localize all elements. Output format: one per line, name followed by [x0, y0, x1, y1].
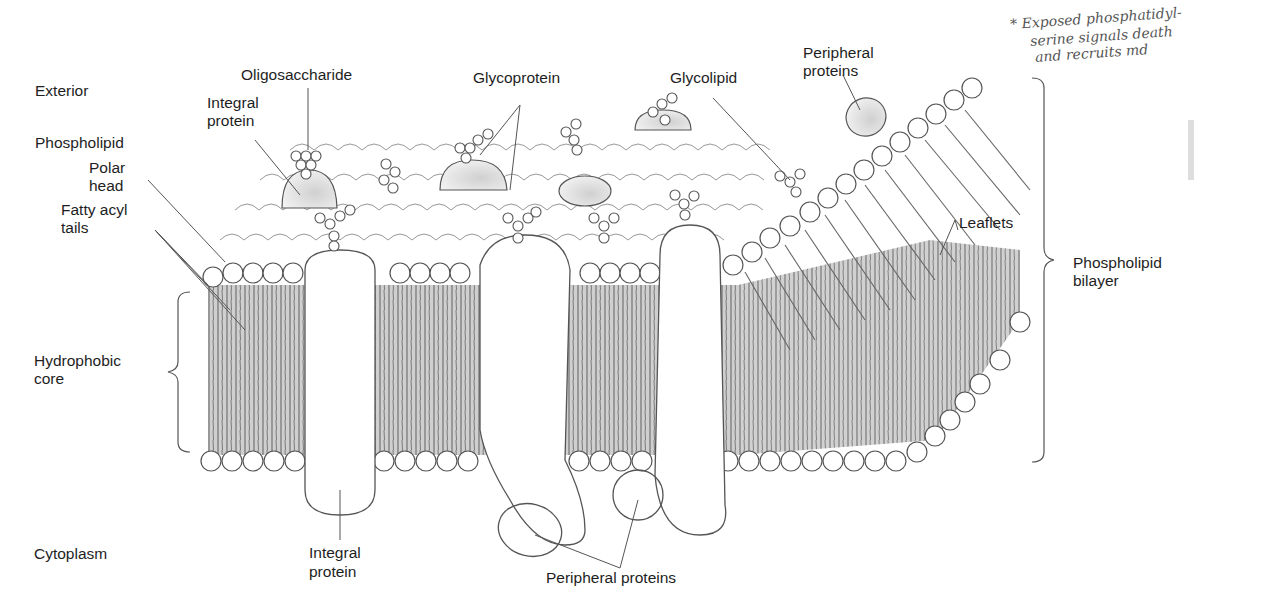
membrane-diagram — [0, 0, 1263, 610]
smudge — [1188, 120, 1194, 180]
oligosaccharides — [291, 93, 805, 251]
label-fatty-acyl-tails-2: tails — [61, 218, 89, 237]
label-polar-head-2: head — [89, 176, 123, 195]
label-fatty-acyl-tails-1: Fatty acyl — [61, 200, 127, 219]
label-integral-protein-bottom-1: Integral — [309, 543, 361, 562]
label-integral-protein-bottom-2: protein — [309, 562, 356, 581]
label-peripheral-proteins-top-2: proteins — [803, 61, 858, 80]
label-hydrophobic-core-2: core — [34, 369, 64, 388]
label-phospholipid: Phospholipid — [35, 133, 124, 152]
label-oligosaccharide: Oligosaccharide — [241, 65, 352, 84]
label-peripheral-proteins-top-1: Peripheral — [803, 43, 874, 62]
label-peripheral-proteins-bottom: Peripheral proteins — [546, 568, 676, 587]
label-phospholipid-bilayer-2: bilayer — [1073, 271, 1119, 290]
label-cytoplasm: Cytoplasm — [34, 544, 107, 563]
label-exterior: Exterior — [35, 81, 88, 100]
label-integral-protein-top-2: protein — [207, 111, 254, 130]
label-phospholipid-bilayer-1: Phospholipid — [1073, 253, 1162, 272]
label-polar-head-1: Polar — [89, 158, 125, 177]
label-integral-protein-top-1: Integral — [207, 93, 259, 112]
label-leaflets: Leaflets — [959, 213, 1013, 232]
label-glycolipid: Glycolipid — [670, 68, 737, 87]
label-hydrophobic-core-1: Hydrophobic — [34, 351, 121, 370]
label-glycoprotein: Glycoprotein — [473, 68, 560, 87]
